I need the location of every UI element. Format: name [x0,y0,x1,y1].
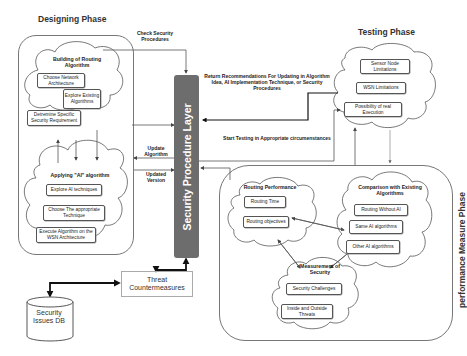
diagram-connectors [0,0,467,356]
label-updated-version: Updated Version [140,171,172,183]
label-return-recommendations: Return Recommendations For Updating in A… [204,73,330,91]
box-routing-objectives: Routing objectives [243,216,289,228]
box-wsn-limitations: WSN Limitations [356,82,406,94]
box-execute-algorithm: Execute Algorithm on the WSN Architectur… [36,227,96,243]
box-same-ai-algorithms: Same AI algorithms [349,220,403,234]
applying-cloud-title: Applying "AI" algorithm [45,172,115,178]
box-explore-existing-algorithms: Explore Existing Algorithms [63,89,101,109]
box-sensor-node-limitations: Sensor Node Limitations [360,59,410,74]
box-choose-technique: Choose The appropriate Technique [43,205,105,221]
box-determine-security-requirement: Detremine Specific Security Requirement [27,110,81,126]
comparison-cloud-title: Comparison with Existing Algorithms [355,184,425,196]
label-update-algorithm: Update Algorithm [140,145,172,157]
box-possibility-real-execution: Possibility of real Execution [344,102,402,117]
box-routing-time: Routing Time [244,196,286,208]
box-security-challenges: Security Challenges [286,283,342,295]
label-check-security: Check Security Procedures [135,30,175,42]
security-procedure-layer: Security Procedure Layer [174,75,199,258]
threat-countermeasures-box: Threat Countermeasures [121,271,193,297]
box-choose-network-architecture: Choose Network Architecture [37,73,85,88]
building-cloud-title: Building of Routing Algorithm [42,56,112,68]
box-explore-ai-techniques: Explore AI techniques [46,184,102,196]
security-issues-db: Security Issues DB [26,309,72,324]
security-cloud-title: Measurement of Security [290,263,350,275]
label-start-testing: Start Testing in Appropriate circumensta… [222,135,332,141]
security-procedure-layer-label: Security Procedure Layer [181,103,193,230]
box-other-ai-algorithms: Other AI algorithms [346,240,400,254]
routing-performance-title: Routing Performance [240,184,300,190]
box-routing-without-ai: Routing Without AI [354,204,408,216]
box-inside-outside-threats: Inside and Outside Threats [281,304,333,319]
